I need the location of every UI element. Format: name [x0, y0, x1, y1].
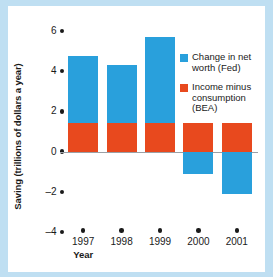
legend-label-blue-line1: Change in net [192, 52, 251, 63]
x-axis-tick: 2001 [217, 228, 257, 247]
x-axis-tick: 1999 [140, 228, 180, 247]
legend-item-income-minus-consumption: Income minus consumption (BEA) [180, 82, 262, 114]
x-axis-title: Year [63, 249, 103, 260]
bar-segment-change-in-net-worth [107, 65, 137, 123]
bar-segment-change-in-net-worth [68, 56, 98, 123]
bar-segment-income-minus-consumption [222, 123, 252, 151]
x-axis-tick-label: 2000 [178, 237, 218, 247]
legend-label-orange-line3: (BEA) [192, 103, 251, 114]
x-axis-tick-marker [81, 228, 86, 233]
x-axis-tick-label: 1998 [102, 237, 142, 247]
chart-figure: Saving (trillions of dollars a year) 642… [8, 6, 265, 272]
x-axis-tick-label: 2001 [217, 237, 257, 247]
legend-label-blue-line2: worth (Fed) [192, 63, 251, 74]
x-axis-tick-marker [235, 228, 240, 233]
bar-segment-income-minus-consumption [68, 123, 98, 151]
bar-segment-change-in-net-worth [145, 37, 175, 123]
x-axis-tick: 1998 [102, 228, 142, 247]
x-axis-tick-marker [119, 228, 124, 233]
x-axis-tick-label: 1999 [140, 237, 180, 247]
legend-swatch-orange [180, 84, 188, 92]
bar-segment-income-minus-consumption [107, 123, 137, 151]
bar-segment-income-minus-consumption [145, 123, 175, 151]
x-axis-tick-marker [158, 228, 163, 233]
legend-swatch-blue [180, 54, 188, 62]
legend-label-blue: Change in net worth (Fed) [192, 52, 251, 73]
x-axis-tick-marker [196, 228, 201, 233]
x-axis-tick-label: 1997 [63, 237, 103, 247]
bar-segment-income-minus-consumption [183, 123, 213, 151]
legend-item-change-in-net-worth: Change in net worth (Fed) [180, 52, 262, 73]
bar-segment-change-in-net-worth [222, 152, 252, 194]
chart-legend: Change in net worth (Fed) Income minus c… [180, 52, 262, 123]
legend-label-orange-line1: Income minus [192, 82, 251, 93]
bar-segment-change-in-net-worth [183, 152, 213, 174]
legend-label-orange: Income minus consumption (BEA) [192, 82, 251, 114]
x-axis-tick: 1997 [63, 228, 103, 247]
x-axis-tick: 2000 [178, 228, 218, 247]
